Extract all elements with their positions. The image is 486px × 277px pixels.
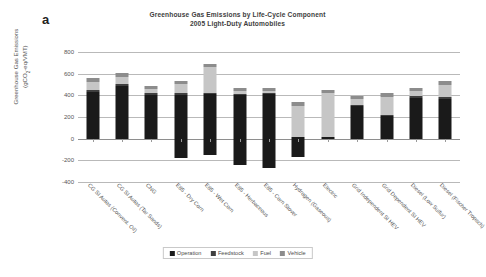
bar-segment	[86, 92, 99, 139]
legend-swatch	[210, 251, 215, 256]
bar-stack[interactable]	[401, 52, 430, 182]
bar-segment	[145, 86, 158, 89]
bar-segment	[321, 93, 334, 136]
bar-stack[interactable]	[254, 52, 283, 182]
bar-segment	[321, 90, 334, 93]
x-axis-tickmark	[328, 139, 329, 142]
x-axis-label: E85 - Dry Corn	[175, 182, 206, 213]
x-axis-labels: CG SI Autos (Convent. Oil)CG SI Autos (T…	[78, 182, 460, 244]
bar-segment	[204, 67, 217, 94]
bar-segment	[116, 84, 129, 86]
bar-stack[interactable]	[372, 52, 401, 182]
x-axis-tickmark	[240, 139, 241, 142]
bar-stack[interactable]	[107, 52, 136, 182]
y-axis-title-line1: Greenhouse Gas Emissions	[12, 29, 19, 105]
bar-stack[interactable]	[313, 52, 342, 182]
bar-segment	[409, 96, 422, 98]
chart-subtitle: 2005 Light-Duty Automobiles	[0, 20, 475, 29]
legend-label: Operation	[177, 250, 202, 256]
bar-stack[interactable]	[431, 52, 460, 182]
bar-segment	[262, 91, 275, 93]
bar-segment	[116, 86, 129, 139]
bar-segment	[439, 99, 452, 139]
legend-swatch	[169, 251, 174, 256]
bar-segment	[204, 93, 217, 94]
bar-segment	[439, 97, 452, 99]
plot-area: 8006004002000-200-400	[78, 52, 460, 182]
bar-segment	[262, 139, 275, 168]
bar-segment	[86, 82, 99, 90]
y-axis-title-line2: (gCO2-eq/VMT)	[21, 9, 33, 125]
bar-segment	[380, 116, 393, 139]
chart-title: Greenhouse Gas Emissions by Life-Cycle C…	[0, 11, 475, 20]
bar-segment	[439, 85, 452, 97]
x-axis-tickmark	[387, 139, 388, 142]
x-axis-label: CNG	[145, 182, 158, 195]
bar-segment	[292, 106, 305, 137]
bar-segment	[409, 91, 422, 96]
y-axis-tick-label: 800	[64, 49, 74, 55]
bar-segment	[409, 98, 422, 139]
bar-segment	[262, 94, 275, 138]
bar-stack[interactable]	[225, 52, 254, 182]
bar-segment	[380, 115, 393, 116]
legend-item[interactable]: Vehicle	[280, 250, 306, 256]
y-axis-tick-label: -400	[62, 179, 74, 185]
bar-segment	[233, 94, 246, 95]
y-axis-tick-label: 400	[64, 92, 74, 98]
y-axis-tick-label: 0	[71, 136, 74, 142]
bar-segment	[204, 64, 217, 67]
legend-item[interactable]: Fuel	[253, 250, 271, 256]
x-axis-label: Electric	[322, 182, 339, 199]
bar-segment	[233, 95, 246, 139]
bar-segment	[351, 96, 364, 100]
x-axis-tickmark	[210, 139, 211, 142]
bar-segment	[233, 139, 246, 166]
bar-segment	[86, 90, 99, 92]
bar-segment	[233, 88, 246, 91]
x-axis-tickmark	[93, 139, 94, 142]
legend-item[interactable]: Operation	[169, 250, 201, 256]
bar-stack[interactable]	[342, 52, 371, 182]
y-axis-title: Greenhouse Gas Emissions (gCO2-eq/VMT)	[11, 9, 32, 125]
bar-segment	[204, 94, 217, 138]
legend-swatch	[280, 251, 285, 256]
x-axis-tickmark	[445, 139, 446, 142]
bar-segment	[145, 95, 158, 139]
x-axis-tickmark	[181, 139, 182, 142]
bar-segment	[233, 91, 246, 94]
x-axis-tickmark	[298, 139, 299, 142]
y-axis-tick-label: 600	[64, 71, 74, 77]
bar-segment	[116, 73, 129, 77]
bar-segment	[351, 105, 364, 106]
legend-item[interactable]: Feedstock	[210, 250, 243, 256]
x-axis-label: Diesel (Fischer Tropsch)	[439, 182, 486, 229]
bar-stack[interactable]	[78, 52, 107, 182]
legend-label: Feedstock	[218, 250, 244, 256]
bar-segment	[86, 78, 99, 82]
bar-segment	[380, 97, 393, 115]
chart-legend: OperationFeedstockFuelVehicle	[162, 247, 312, 259]
legend-label: Fuel	[260, 250, 271, 256]
bar-segment	[439, 81, 452, 85]
bar-segment	[174, 81, 187, 84]
bar-group	[78, 52, 460, 182]
bar-stack[interactable]	[166, 52, 195, 182]
x-axis-tickmark	[269, 139, 270, 142]
bar-stack[interactable]	[284, 52, 313, 182]
chart-title-block: Greenhouse Gas Emissions by Life-Cycle C…	[0, 11, 475, 29]
bar-stack[interactable]	[196, 52, 225, 182]
x-axis-tickmark	[357, 139, 358, 142]
bar-segment	[145, 89, 158, 93]
legend-label: Vehicle	[288, 250, 306, 256]
bar-segment	[262, 93, 275, 94]
bar-segment	[262, 88, 275, 91]
bar-segment	[380, 93, 393, 96]
x-axis-label: CG SI Autos (Convent. Oil)	[86, 182, 138, 234]
x-axis-tickmark	[416, 139, 417, 142]
bar-segment	[292, 102, 305, 105]
x-axis-tickmark	[151, 139, 152, 142]
bar-stack[interactable]	[137, 52, 166, 182]
y-axis-tick-label: -200	[62, 157, 74, 163]
bar-segment	[174, 84, 187, 93]
